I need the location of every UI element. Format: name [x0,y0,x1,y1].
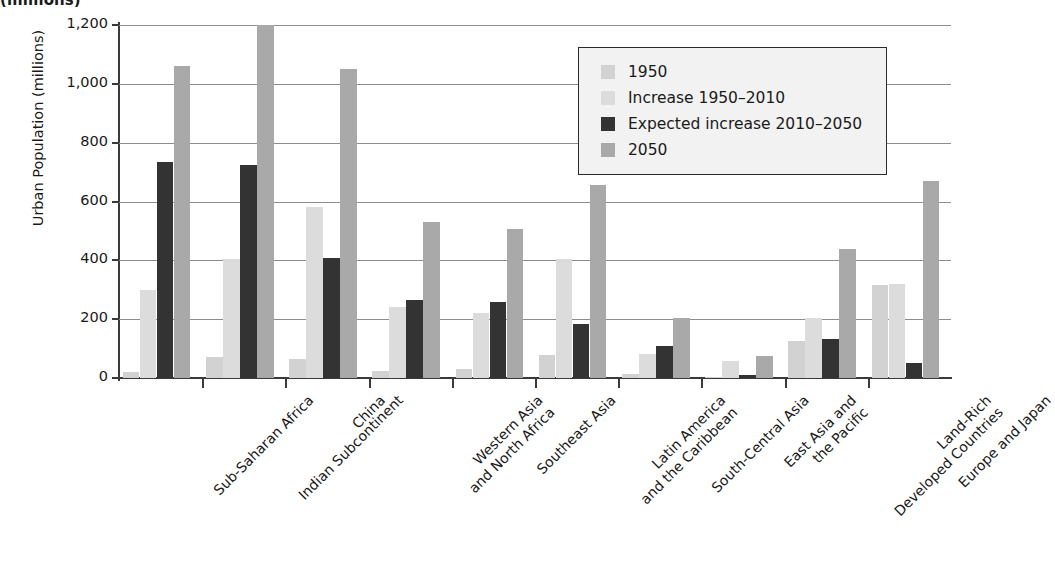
bar [923,181,940,378]
y-tick-label: 400 [46,250,108,266]
bar [174,66,191,378]
bar [456,369,473,378]
x-tick-label: Sub-Saharan Africa [210,392,317,499]
bar [805,318,822,378]
bar-group [206,25,274,378]
bar [573,324,590,378]
bar [257,25,274,378]
legend-item: 1950 [601,59,886,85]
y-axis-tick [112,83,119,85]
bar [223,259,240,378]
y-axis-tick [112,201,119,203]
legend-item: Expected increase 2010–2050 [601,111,886,137]
bar [889,284,906,378]
category-separator [785,379,787,388]
bar [639,354,656,378]
bar [756,356,773,378]
bar [323,258,340,378]
category-separator [202,379,204,388]
category-separator [535,379,537,388]
bar [739,375,756,378]
y-axis-title: Urban Population (millions) [30,0,46,258]
legend-label: 1950 [628,63,667,81]
bar [372,371,389,378]
category-separator [452,379,454,388]
y-tick-label: 1,200 [46,15,108,31]
bar [673,318,690,378]
bar [473,313,490,378]
category-separator [369,379,371,388]
y-axis-tick [112,24,119,26]
y-axis-tick [112,377,119,379]
bar [240,165,257,378]
y-tick-label: 800 [46,133,108,149]
bar [389,307,406,378]
bar [406,300,423,378]
y-axis-tick [112,142,119,144]
bar [622,374,639,378]
y-axis-tick [112,318,119,320]
category-separator [868,379,870,388]
bar [906,363,923,378]
bar-group [289,25,357,378]
y-tick-label: 600 [46,192,108,208]
title-fragment: (millions) [0,0,967,7]
legend-label: Increase 1950–2010 [628,89,785,107]
bar [123,372,140,378]
legend: 1950Increase 1950–2010Expected increase … [578,47,887,175]
bar [705,377,722,378]
bar [340,69,357,378]
legend-swatch [601,91,615,105]
bar [539,355,556,378]
bar [590,185,607,378]
bar [157,162,174,378]
bar [872,285,889,378]
bar [839,249,856,378]
legend-items: 1950Increase 1950–2010Expected increase … [601,59,886,163]
legend-item: 2050 [601,137,886,163]
y-tick-label: 1,000 [46,74,108,90]
legend-swatch [601,143,615,157]
category-separator [701,379,703,388]
bar [140,290,157,378]
x-tick-label: Western Asia and North Africa [454,392,559,497]
category-separator [285,379,287,388]
bar [788,341,805,378]
y-tick-label: 200 [46,309,108,325]
bar-group [123,25,191,378]
bar [556,259,573,378]
legend-label: 2050 [628,141,667,159]
legend-swatch [601,65,615,79]
bar-group [456,25,524,378]
bar-group [372,25,440,378]
bar [722,361,739,378]
bar [206,357,223,378]
bar [656,346,673,378]
bar [507,229,524,378]
bar [423,222,440,378]
y-tick-label: 0 [46,368,108,384]
category-separator [618,379,620,388]
y-axis-tick [112,259,119,261]
bar [306,207,323,378]
legend-label: Expected increase 2010–2050 [628,115,862,133]
legend-swatch [601,117,615,131]
bar [822,339,839,378]
bar [289,359,306,378]
bar [490,302,507,378]
legend-item: Increase 1950–2010 [601,85,886,111]
